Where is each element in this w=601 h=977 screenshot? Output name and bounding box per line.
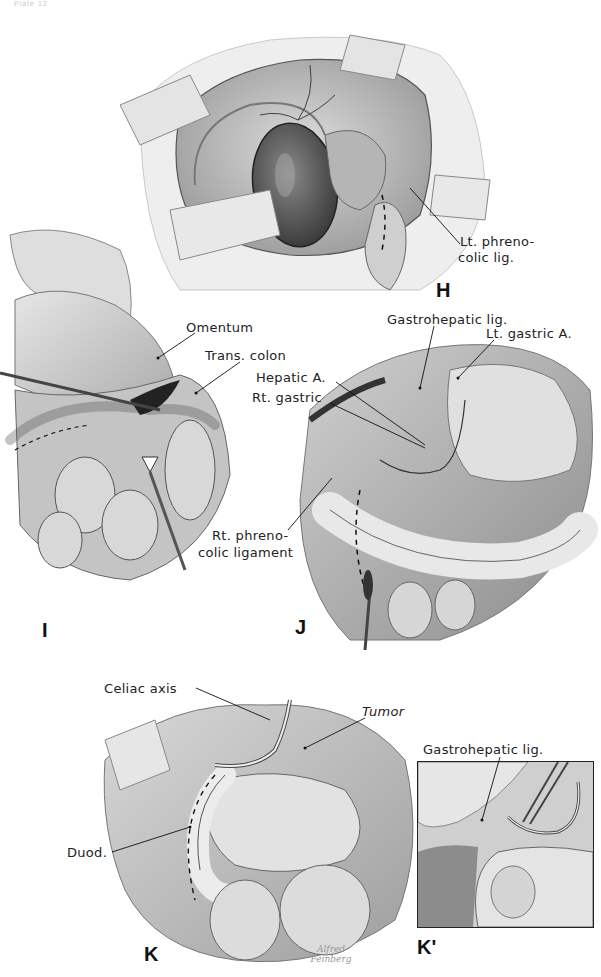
label-trans-colon: Trans. colon <box>205 348 286 363</box>
label-gastrohepatic-lig: Gastrohepatic lig. <box>387 312 507 327</box>
figure-k-prime-illustration <box>417 761 594 928</box>
figure-i-illustration <box>0 225 245 585</box>
label-lt-phrenocolic-line1: Lt. phreno- <box>460 234 535 249</box>
label-lt-gastric-a: Lt. gastric A. <box>486 326 572 341</box>
figure-k-prime-drawing <box>418 762 593 927</box>
artist-signature: Alfred Feinberg <box>306 944 356 964</box>
label-rt-gastric: Rt. gastric <box>252 390 322 405</box>
figure-letter-i: I <box>42 620 48 640</box>
label-tumor: Tumor <box>362 704 404 719</box>
figure-i-drawing <box>0 225 245 585</box>
label-duod: Duod. <box>67 845 107 860</box>
figure-letter-k-prime: K' <box>417 937 436 957</box>
label-celiac-axis: Celiac axis <box>104 681 177 696</box>
label-lt-phrenocolic-line2: colic lig. <box>458 250 514 265</box>
figure-letter-j: J <box>295 617 306 637</box>
label-gastrohepatic-lig-kprime: Gastrohepatic lig. <box>423 742 543 757</box>
figure-letter-k: K <box>144 944 158 964</box>
label-rt-phrenocolic-line2: colic ligament <box>198 545 293 560</box>
figure-k-illustration <box>95 680 425 970</box>
figure-j-drawing <box>290 340 601 650</box>
plate-header: Plate 12 <box>14 0 48 7</box>
label-rt-phrenocolic-line1: Rt. phreno- <box>212 528 288 543</box>
figure-j-illustration <box>290 340 601 650</box>
illustration-plate: Plate 12 <box>0 0 601 977</box>
figure-letter-h: H <box>436 280 450 300</box>
figure-k-drawing <box>95 680 425 970</box>
signature-line2: Feinberg <box>306 954 356 964</box>
signature-line1: Alfred <box>306 944 356 954</box>
label-hepatic-a: Hepatic A. <box>256 370 326 385</box>
label-omentum: Omentum <box>186 320 253 335</box>
